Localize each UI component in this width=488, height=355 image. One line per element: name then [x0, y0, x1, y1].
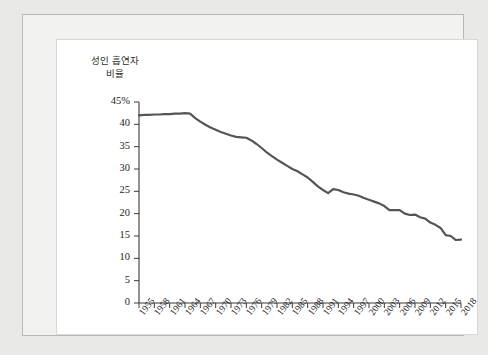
y-axis-tick-label: 35	[120, 140, 131, 151]
y-axis-tick-label: 25	[120, 184, 131, 195]
axes	[139, 102, 461, 303]
figure-panel: 성인 흡연자 비율 051015202530354045% 1955195819…	[56, 39, 478, 335]
y-axis-tick-label: 40	[120, 117, 131, 128]
figure-outer-border: 성인 흡연자 비율 051015202530354045% 1955195819…	[22, 14, 464, 336]
y-axis-tick-label: 20	[120, 207, 131, 218]
line-chart: 성인 흡연자 비율 051015202530354045% 1955195819…	[57, 40, 479, 336]
y-axis-tick-label: 5	[125, 274, 130, 285]
smoking-rate-line	[139, 113, 461, 240]
y-axis-tick-label: 15	[120, 229, 131, 240]
y-axis-tick-label: 10	[120, 251, 131, 262]
y-axis-ticks	[134, 102, 139, 303]
y-axis-tick-label: 30	[120, 162, 131, 173]
y-axis-tick-label: 0	[125, 296, 130, 307]
scanned-page-background: 성인 흡연자 비율 051015202530354045% 1955195819…	[0, 0, 488, 355]
y-axis-tick-label: 45%	[111, 95, 130, 106]
